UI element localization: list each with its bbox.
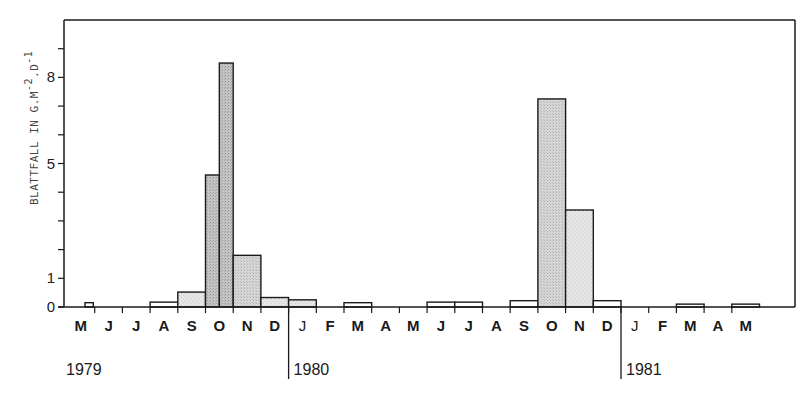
month-label: N [242,317,253,334]
y-tick-label: 0 [47,298,55,315]
bar-14 [593,301,621,307]
year-label: 1980 [294,361,330,378]
bar-11 [510,301,538,307]
y-tick-label: 1 [47,269,55,286]
month-labels: MJJASONDJFMAMJJASONDJFMAM [75,317,752,334]
month-label: D [269,317,280,334]
leaf-fall-chart: 0158 MJJASONDJFMAMJJASONDJFMAM 197919801… [0,0,809,399]
month-label: J [132,317,140,334]
month-label: D [602,317,613,334]
month-label: J [299,317,307,334]
bar-6 [261,298,289,307]
month-label: A [159,317,170,334]
y-axis-ticks: 0158 [47,49,64,315]
month-label: O [546,317,558,334]
bar-12 [538,99,566,307]
y-axis-label: BLATTFALL IN G.M-2.D-1 [23,51,41,205]
month-label: F [326,317,335,334]
bar-2 [178,292,206,307]
month-label: J [464,317,472,334]
month-label: J [631,317,639,334]
x-axis-ticks [95,307,732,313]
month-label: A [380,317,391,334]
month-label: M [684,317,697,334]
year-label: 1979 [66,361,102,378]
bar-13 [566,210,594,307]
bar-series [85,63,759,307]
bar-4 [219,63,233,307]
bar-7 [289,300,317,307]
month-label: N [574,317,585,334]
month-label: F [658,317,667,334]
plot-frame [64,20,795,307]
bar-3 [206,175,220,307]
y-tick-label: 8 [47,68,55,85]
month-label: M [739,317,752,334]
bar-5 [233,255,261,307]
month-label: A [491,317,502,334]
month-label: J [104,317,112,334]
month-label: M [352,317,365,334]
year-label: 1981 [626,361,662,378]
month-label: A [713,317,724,334]
month-label: M [407,317,420,334]
month-label: O [214,317,226,334]
month-label: S [187,317,197,334]
month-label: S [519,317,529,334]
y-tick-label: 5 [47,155,55,172]
month-label: M [75,317,88,334]
month-label: J [437,317,445,334]
